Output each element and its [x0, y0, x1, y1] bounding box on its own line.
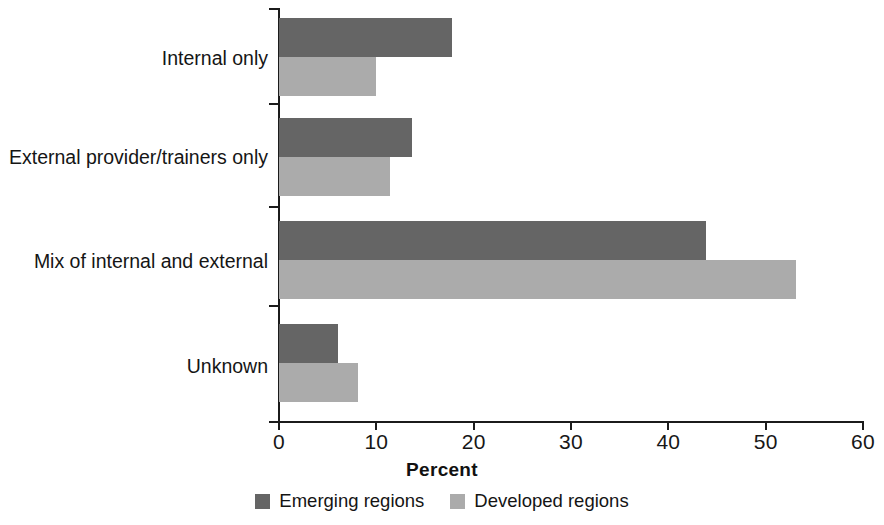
x-axis-tick-label: 20 — [462, 430, 486, 454]
legend-item-developed-regions: Developed regions — [450, 490, 628, 512]
y-axis-tick — [269, 421, 278, 423]
y-axis-tick — [269, 8, 278, 10]
x-axis-tick-label: 60 — [851, 430, 875, 454]
x-axis-tick-label: 50 — [754, 430, 778, 454]
bar-chart: Internal only External provider/trainers… — [0, 0, 884, 525]
legend-label-emerging-regions: Emerging regions — [279, 490, 424, 512]
y-axis-tick — [269, 305, 278, 307]
legend-item-emerging-regions: Emerging regions — [255, 490, 424, 512]
x-axis-tick — [765, 421, 767, 430]
x-axis-tick — [375, 421, 377, 430]
x-axis-tick-label: 40 — [656, 430, 680, 454]
x-axis-tick — [473, 421, 475, 430]
category-label-external-provider: External provider/trainers only — [0, 146, 268, 169]
x-axis-tick-label: 0 — [273, 430, 285, 454]
chart-legend: Emerging regions Developed regions — [0, 490, 884, 512]
bar-emerging-mix-internal-external — [279, 221, 706, 260]
bar-developed-mix-internal-external — [279, 260, 796, 299]
y-axis-tick — [269, 206, 278, 208]
x-axis-tick — [667, 421, 669, 430]
legend-swatch-icon — [450, 494, 465, 509]
x-axis-tick — [278, 421, 280, 430]
x-axis-tick-label: 30 — [559, 430, 583, 454]
plot-area — [279, 8, 863, 422]
bar-developed-external-provider — [279, 157, 390, 196]
category-label-internal-only: Internal only — [0, 47, 268, 70]
bar-developed-internal-only — [279, 57, 376, 96]
legend-label-developed-regions: Developed regions — [474, 490, 628, 512]
bar-emerging-external-provider — [279, 118, 412, 157]
category-label-unknown: Unknown — [0, 355, 268, 378]
x-axis-tick — [570, 421, 572, 430]
bar-emerging-unknown — [279, 324, 338, 363]
legend-swatch-icon — [255, 494, 270, 509]
x-axis-tick-label: 10 — [364, 430, 388, 454]
bar-developed-unknown — [279, 363, 358, 402]
x-axis-title: Percent — [0, 459, 884, 481]
category-label-mix-internal-external: Mix of internal and external — [0, 250, 268, 273]
bar-emerging-internal-only — [279, 18, 452, 57]
x-axis-tick — [862, 421, 864, 430]
y-axis-tick — [269, 103, 278, 105]
